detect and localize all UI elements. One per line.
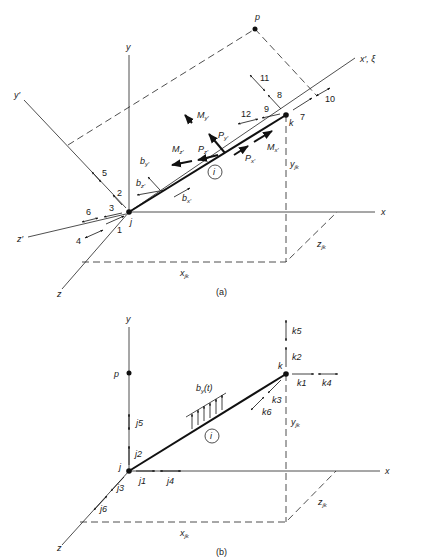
node-p <box>253 27 258 32</box>
dof-5-arrow <box>92 172 101 182</box>
structural-element-diagram: y x z x′, ξ y′ z′ p j k i xjk yjk zjk 2 <box>0 0 426 559</box>
dof-6-label: 6 <box>86 207 91 217</box>
y-axis-label: y <box>125 42 131 52</box>
moment-z-arrow <box>172 161 192 165</box>
dof-10-label: 10 <box>325 94 335 104</box>
dof-k2-label: k2 <box>292 352 302 362</box>
dof-3-arrow <box>104 213 122 217</box>
base-dashed-b <box>80 471 336 522</box>
dof-k4-label: k4 <box>322 378 332 388</box>
zjk-label-b: zjk <box>317 497 328 508</box>
z-local-axis-label: z′ <box>16 234 24 244</box>
dof-k3-label: k3 <box>272 395 282 405</box>
dof-j6-label: j6 <box>99 504 107 514</box>
node-j-label-b: j <box>118 462 122 472</box>
member-id-label: i <box>213 167 216 177</box>
dof-k6-label: k6 <box>262 407 272 417</box>
body-force-x-label: bx′ <box>182 193 192 204</box>
dof-k1-label: k1 <box>297 378 307 388</box>
dof-3-label: 3 <box>109 203 114 213</box>
xjk-label: xjk <box>179 268 190 279</box>
member-id-circle <box>208 165 222 179</box>
dof-1-label: 1 <box>117 225 122 235</box>
z-axis <box>62 212 129 289</box>
body-force-y-label: by′ <box>140 156 150 167</box>
force-y-label: Py′ <box>218 130 229 141</box>
x-axis-label-b: x <box>384 466 390 476</box>
x-local-axis-label: x′, ξ <box>359 54 376 64</box>
moment-x-label: Mx′ <box>267 142 280 153</box>
dof-9-arrow <box>262 114 280 118</box>
xjk-label-b: xjk <box>179 528 190 539</box>
dof-j3-label: j3 <box>116 483 124 493</box>
z-axis-label: z <box>56 289 62 299</box>
dof-j4-label: j4 <box>166 476 174 486</box>
caption-b: (b) <box>216 547 227 557</box>
dof-12-arrow <box>238 119 258 124</box>
y-local-axis <box>24 100 126 208</box>
z-local-axis <box>28 214 126 237</box>
node-j <box>126 209 132 215</box>
dof-12-label: 12 <box>241 109 251 119</box>
member-id-label-b: i <box>210 431 213 441</box>
node-p-label-b: p <box>113 369 119 379</box>
yjk-label: yjk <box>289 159 300 170</box>
node-j-b <box>126 468 132 474</box>
dof-4-label: 4 <box>76 236 81 246</box>
dof-j2-label: j2 <box>134 449 142 459</box>
x-axis-label: x <box>380 207 386 217</box>
dof-11-label: 11 <box>260 73 269 83</box>
yjk-label-b: yjk <box>290 417 301 428</box>
dof-7-arrow <box>293 98 312 110</box>
base-dashed <box>82 212 337 262</box>
dof-8-label: 8 <box>277 90 282 100</box>
member-id-circle-b <box>205 429 219 443</box>
body-force-z-label: bz′ <box>136 178 146 189</box>
zjk-label: zjk <box>316 239 327 250</box>
load-top-line <box>186 393 226 417</box>
x-local-axis <box>129 58 355 212</box>
body-force-y-arrow <box>148 177 160 190</box>
member-i <box>129 115 286 212</box>
dof-2-label: 2 <box>117 188 122 198</box>
force-x-label: Px′ <box>245 153 256 164</box>
node-k-label: k <box>289 118 294 128</box>
dof-4-arrow <box>85 230 103 238</box>
load-label: by(t) <box>196 383 213 394</box>
moment-z-label: Mz′ <box>172 144 185 155</box>
p-plane-dashed <box>68 29 317 145</box>
figure-b: y x z p j k i by(t) xjk yjk zjk <box>56 314 390 557</box>
moment-y-label: My′ <box>197 110 210 121</box>
moment-y-arrow <box>185 115 192 123</box>
z-axis-label-b: z <box>56 543 62 553</box>
caption-a: (a) <box>216 287 227 297</box>
y-local-axis-label: y′ <box>13 90 21 100</box>
node-k-b <box>283 371 289 377</box>
dof-j5-label: j5 <box>135 418 144 428</box>
node-p-label: p <box>254 12 260 22</box>
node-p-b <box>127 371 132 376</box>
node-k <box>283 112 289 118</box>
figure-a: y x z x′, ξ y′ z′ p j k i xjk yjk zjk 2 <box>13 12 386 299</box>
dof-9-label: 9 <box>264 104 269 114</box>
dof-j1-label: j1 <box>138 476 146 486</box>
dof-1-arrow <box>106 216 124 224</box>
dof-5-label: 5 <box>102 168 107 178</box>
dof-7-label: 7 <box>300 112 305 122</box>
y-axis-label-b: y <box>125 314 131 324</box>
node-k-label-b: k <box>278 361 283 371</box>
node-j-label: j <box>129 217 133 227</box>
force-z-label: Pz′ <box>198 144 209 155</box>
dof-k5-label: k5 <box>292 326 303 336</box>
